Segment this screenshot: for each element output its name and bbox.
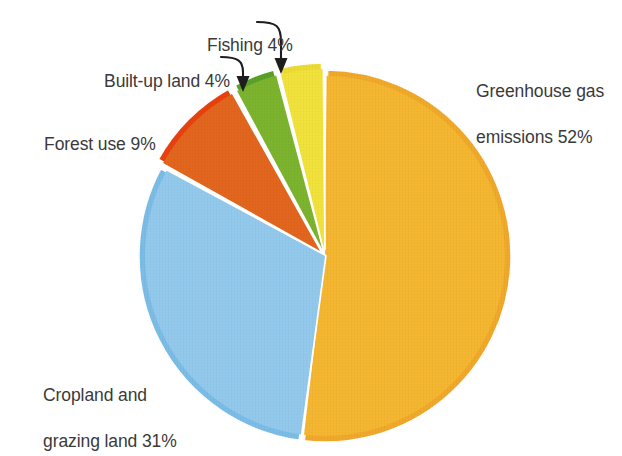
slice-label-line-1: Greenhouse gas: [476, 81, 604, 101]
pie-chart: Greenhouse gas emissions 52% Cropland an…: [0, 0, 622, 456]
slice-label-fishing: Fishing 4%: [188, 11, 293, 80]
slice-label-line-1: Cropland and: [43, 385, 147, 405]
slice-label-greenhouse-gas-emissions: Greenhouse gas emissions 52%: [457, 57, 604, 172]
slice-label-line-2: grazing land 31%: [43, 431, 177, 451]
slice-label-line-2: emissions 52%: [476, 127, 592, 147]
slice-label-cropland-and-grazing-land: Cropland and grazing land 31%: [24, 361, 177, 456]
slice-label-line-1: Fishing 4%: [207, 35, 293, 55]
slice-label-line-1: Forest use 9%: [44, 134, 156, 154]
slice-label-forest-use: Forest use 9%: [25, 110, 156, 179]
